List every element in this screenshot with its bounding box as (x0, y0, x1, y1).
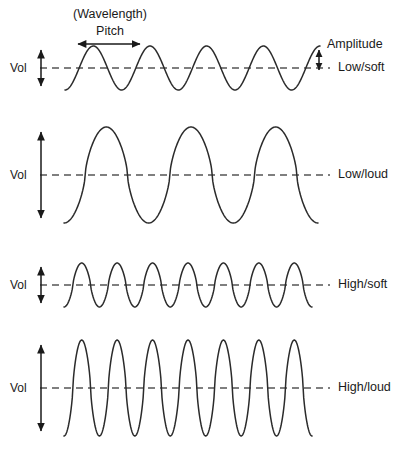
vol-label-high-soft: Vol (10, 279, 27, 291)
row-label-high-soft: High/soft (338, 278, 387, 291)
baseline-group (40, 68, 330, 388)
vol-label-low-soft: Vol (10, 62, 27, 74)
amplitude-label: Amplitude (327, 38, 383, 51)
row-label-low-loud: Low/loud (338, 168, 388, 181)
vol-label-low-loud: Vol (10, 169, 27, 181)
row-label-low-soft: Low/soft (338, 61, 385, 74)
wavelength-label: (Wavelength) (62, 8, 158, 21)
vol-label-high-loud: Vol (10, 382, 27, 394)
pitch-label: Pitch (62, 25, 158, 38)
wave-group (64, 46, 320, 436)
row-label-high-loud: High/loud (338, 381, 391, 394)
sound-wave-diagram: (Wavelength) Pitch Amplitude Vol Vol Vol… (0, 0, 405, 450)
